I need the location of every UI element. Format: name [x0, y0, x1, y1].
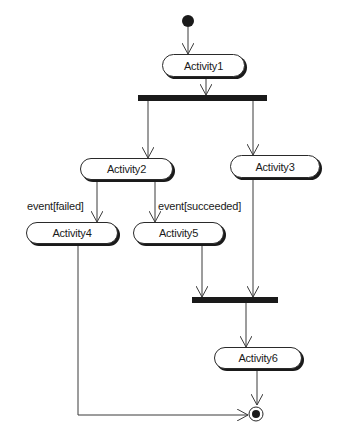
activity-label: Activity4 [52, 227, 91, 239]
initial-node-icon [182, 15, 194, 27]
fork-bar [138, 95, 267, 101]
guard-succeeded: event[succeeded] [158, 200, 241, 212]
activity-label: Activity3 [255, 161, 294, 173]
activity-label: Activity2 [107, 163, 146, 175]
edge-activity4-final [78, 244, 248, 415]
activity-label: Activity5 [159, 227, 198, 239]
activity-node-1[interactable]: Activity1 [162, 54, 245, 77]
activity-node-6[interactable]: Activity6 [214, 347, 302, 369]
activity-node-5[interactable]: Activity5 [133, 222, 224, 244]
activity-label: Activity6 [238, 352, 277, 364]
activity-node-2[interactable]: Activity2 [80, 158, 173, 180]
activity-diagram: Activity1 Activity2 Activity3 Activity4 … [0, 0, 338, 437]
join-bar [192, 297, 278, 303]
activity-node-4[interactable]: Activity4 [26, 222, 118, 244]
guard-failed: event[failed] [27, 200, 84, 212]
activity-node-3[interactable]: Activity3 [230, 155, 320, 178]
final-node-icon [249, 407, 263, 421]
activity-label: Activity1 [184, 60, 223, 72]
